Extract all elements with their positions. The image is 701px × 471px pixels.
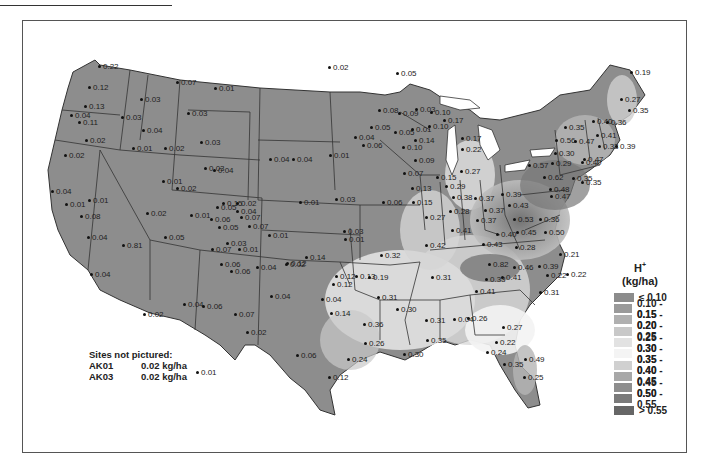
site-value: 0.02 xyxy=(148,310,164,319)
site-marker: 0.42 xyxy=(425,242,446,250)
site-dot-icon xyxy=(403,172,406,175)
site-marker: 0.17 xyxy=(461,135,482,143)
site-marker: 0.56 xyxy=(555,137,576,145)
site-marker: 0.39 xyxy=(501,191,522,199)
site-marker: 0.47 xyxy=(583,156,604,164)
site-value: 0.45 xyxy=(521,228,537,237)
site-value: 0.31 xyxy=(436,273,452,282)
site-marker: 0.47 xyxy=(574,138,595,146)
site-value: 0.08 xyxy=(383,106,399,115)
site-value: 0.41 xyxy=(506,273,522,282)
legend: H+ (kg/ha) ≤ 0.100.10 - 0.150.15 - 0.200… xyxy=(600,258,680,416)
site-value: 0.62 xyxy=(548,173,564,182)
site-dot-icon xyxy=(87,236,90,239)
site-value: 0.01 xyxy=(243,245,259,254)
legend-title: H+ xyxy=(600,258,680,275)
site-dot-icon xyxy=(143,313,146,316)
site-marker: 0.07 xyxy=(234,311,255,319)
site-dot-icon xyxy=(453,318,456,321)
site-dot-icon xyxy=(377,296,380,299)
site-marker: 0.13 xyxy=(411,185,432,193)
site-marker: 0.41 xyxy=(451,227,472,235)
site-dot-icon xyxy=(370,126,373,129)
site-dot-icon xyxy=(51,190,54,193)
site-value: 0.11 xyxy=(83,118,98,127)
site-dot-icon xyxy=(539,291,542,294)
site-value: 0.06 xyxy=(235,267,251,276)
site-value: 0.01 xyxy=(219,84,235,93)
site-dot-icon xyxy=(162,180,165,183)
site-marker: 0.38 xyxy=(452,194,473,202)
site-value: 0.36 xyxy=(544,215,560,224)
site-marker: 0.04 xyxy=(90,271,111,279)
site-dot-icon xyxy=(187,112,190,115)
site-value: 0.17 xyxy=(448,116,464,125)
site-dot-icon xyxy=(598,145,601,148)
site-marker: 0.04 xyxy=(183,301,204,309)
site-value: 0.03 xyxy=(145,95,161,104)
site-value: 0.47 xyxy=(579,137,595,146)
site-dot-icon xyxy=(121,116,124,119)
site-value: 0.43 xyxy=(513,201,529,210)
site-value: 0.10 xyxy=(407,143,423,152)
site-marker: 0.50 xyxy=(544,229,565,237)
site-dot-icon xyxy=(583,158,586,161)
site-marker: 0.49 xyxy=(524,356,545,364)
site-value: 0.31 xyxy=(430,316,446,325)
site-value: 0.31 xyxy=(382,293,398,302)
site-dot-icon xyxy=(615,145,618,148)
site-marker: 0.81 xyxy=(122,242,143,250)
site-value: 0.37 xyxy=(481,216,497,225)
site-value: 0.05 xyxy=(169,233,185,242)
site-marker: 0.03 xyxy=(343,228,364,236)
site-dot-icon xyxy=(515,246,518,249)
legend-swatch xyxy=(614,327,632,336)
site-marker: 0.31 xyxy=(539,289,560,297)
site-marker: 0.01 xyxy=(344,236,365,244)
site-dot-icon xyxy=(176,81,179,84)
site-dot-icon xyxy=(164,147,167,150)
site-dot-icon xyxy=(574,140,577,143)
site-value: 0.04 xyxy=(147,126,163,135)
site-value: 0.02 xyxy=(251,328,267,337)
site-marker: 0.82 xyxy=(488,261,509,269)
site-value: 0.35 xyxy=(586,178,602,187)
site-marker: 0.06 xyxy=(296,352,317,360)
site-dot-icon xyxy=(630,71,633,74)
site-value: 0.03 xyxy=(126,113,142,122)
site-dot-icon xyxy=(474,197,477,200)
site-marker: 0.01 xyxy=(65,201,86,209)
site-marker: 0.32 xyxy=(380,252,401,260)
site-dot-icon xyxy=(240,216,243,219)
site-dot-icon xyxy=(347,358,350,361)
site-marker: 0.08 xyxy=(378,107,399,115)
site-marker: 0.17 xyxy=(443,117,464,125)
site-value: 0.36 xyxy=(368,320,384,329)
site-value: 0.05 xyxy=(401,69,417,78)
site-dot-icon xyxy=(269,158,272,161)
site-marker: 0.06 xyxy=(362,142,383,150)
site-marker: 0.04 xyxy=(321,296,342,304)
site-value: 0.37 xyxy=(479,194,495,203)
site-marker: 0.39 xyxy=(615,143,636,151)
site-value: 0.41 xyxy=(456,226,472,235)
site-dot-icon xyxy=(414,139,417,142)
site-marker: 0.30 xyxy=(554,150,575,158)
site-value: 0.22 xyxy=(500,338,516,347)
site-value: 0.38 xyxy=(457,193,473,202)
site-value: 0.49 xyxy=(529,355,545,364)
site-dot-icon xyxy=(164,236,167,239)
site-dot-icon xyxy=(335,198,338,201)
site-marker: 0.02 xyxy=(328,64,349,72)
site-value: 0.28 xyxy=(454,207,470,216)
site-dot-icon xyxy=(218,226,221,229)
site-marker: 0.04 xyxy=(213,167,234,175)
legend-swatch xyxy=(614,315,632,324)
site-dot-icon xyxy=(414,159,417,162)
site-dot-icon xyxy=(581,181,584,184)
site-value: 0.28 xyxy=(520,243,536,252)
site-marker: 0.12 xyxy=(332,281,353,289)
legend-rows: ≤ 0.100.10 - 0.150.15 - 0.200.20 - 0.250… xyxy=(600,292,680,416)
site-value: 0.02 xyxy=(169,144,185,153)
site-marker: 0.04 xyxy=(292,156,313,164)
